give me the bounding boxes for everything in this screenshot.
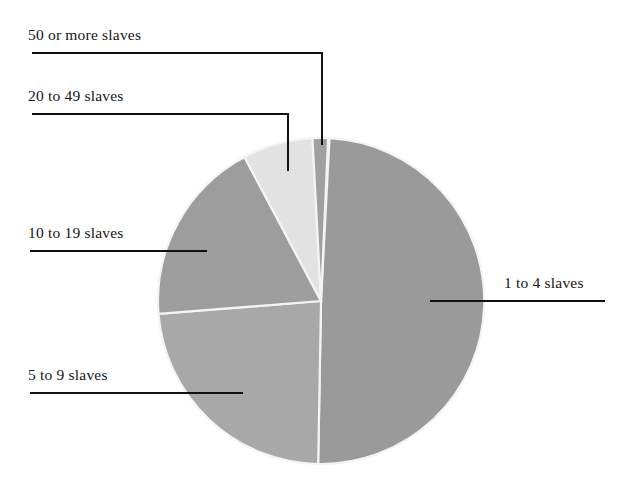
slice-label-5-to-9: 5 to 9 slaves <box>28 367 108 383</box>
pie-chart-svg <box>0 0 636 496</box>
pie-chart-figure: 50 or more slaves 20 to 49 slaves 10 to … <box>0 0 636 496</box>
slice-label-50-or-more: 50 or more slaves <box>28 27 141 43</box>
slice-label-10-to-19: 10 to 19 slaves <box>28 225 124 241</box>
leader-rule-10-to-19 <box>30 250 207 252</box>
leader-rule-20-to-49 <box>32 113 289 115</box>
leader-rule-5-to-9 <box>30 392 243 394</box>
leader-rule-1-to-4 <box>430 300 605 302</box>
leader-drop-50-or-more <box>321 52 323 145</box>
leader-drop-20-to-49 <box>287 113 289 171</box>
slice-label-20-to-49: 20 to 49 slaves <box>28 88 124 104</box>
pie-slice <box>159 301 322 464</box>
slice-label-1-to-4: 1 to 4 slaves <box>504 275 584 291</box>
leader-rule-50-or-more <box>32 52 323 54</box>
